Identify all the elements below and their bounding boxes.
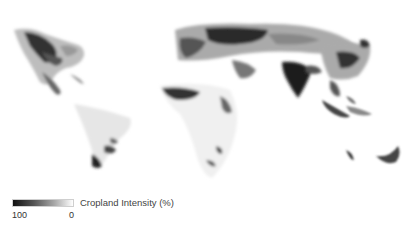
legend-max-label: 100 — [12, 210, 27, 220]
region-southeast-asia — [322, 96, 372, 118]
region-middle-east — [232, 60, 256, 78]
region-africa — [160, 84, 237, 178]
legend-gradient-bar — [12, 199, 74, 207]
region-east-asia — [320, 40, 370, 97]
world-cropland-map — [0, 0, 411, 190]
region-south-asia — [282, 62, 322, 98]
legend-min-label: 0 — [69, 210, 74, 220]
region-south-america — [74, 104, 131, 168]
legend-title: Cropland Intensity (%) — [80, 197, 174, 208]
region-north-america — [14, 29, 84, 95]
region-australia — [346, 146, 400, 163]
